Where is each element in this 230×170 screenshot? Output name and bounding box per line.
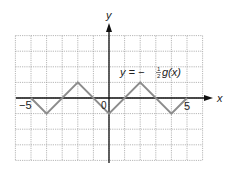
equation-prefix: y = − xyxy=(119,66,145,78)
graph: y x −5 0 5 y = − 1 2 g(x) xyxy=(0,0,230,170)
x-axis-arrow-icon xyxy=(204,95,213,101)
y-axis-label: y xyxy=(105,9,113,21)
y-axis-arrow-icon xyxy=(106,23,112,32)
tick-label-neg5: −5 xyxy=(19,99,32,111)
equation-annotation: y = − 1 2 g(x) xyxy=(119,66,181,79)
equation-fraction-denominator: 2 xyxy=(157,73,161,79)
x-axis-label: x xyxy=(216,92,223,104)
axes xyxy=(16,23,213,163)
equation-suffix: g(x) xyxy=(162,66,181,78)
tick-label-0: 0 xyxy=(101,100,107,111)
equation-fraction-numerator: 1 xyxy=(157,66,161,72)
tick-label-5: 5 xyxy=(184,100,190,112)
